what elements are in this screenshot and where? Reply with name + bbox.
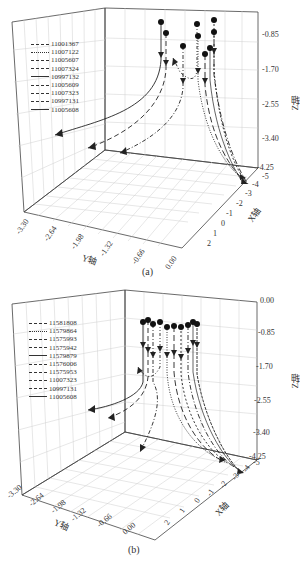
legend-item: 11007122 [31, 48, 79, 56]
legend-item: 11579879 [29, 352, 77, 360]
z-tick: -2.55 [262, 100, 279, 109]
legend-item: 11001367 [31, 40, 79, 48]
legend-item: 11005608 [31, 106, 79, 114]
z-tick: -1.70 [256, 362, 273, 371]
legend-item: 11576006 [29, 360, 77, 368]
chart-panel-b: 11581808 11579864 11575993 11575942 1157… [0, 282, 304, 564]
legend-item: 11005609 [31, 81, 79, 89]
z-tick: 0.00 [260, 296, 274, 305]
legend-a: 11001367 11007122 11005607 11007324 1099… [31, 40, 79, 114]
legend-item: 11005608 [29, 393, 77, 401]
legend-item: 10997131 [29, 385, 77, 393]
legend-b: 11581808 11579864 11575993 11575942 1157… [29, 319, 77, 401]
x-tick: 2 [207, 239, 211, 248]
x-tick: -5 [253, 458, 260, 467]
legend-item: 11579864 [29, 327, 77, 335]
panel-caption-a: (a) [142, 266, 153, 277]
chart-panel-a: 11001367 11007122 11005607 11007324 1099… [0, 0, 304, 282]
legend-item: 11005607 [31, 56, 79, 64]
x-tick: -4 [252, 180, 259, 189]
legend-item: 11575953 [29, 368, 77, 376]
z-tick: -4.25 [257, 163, 274, 172]
x-tick: -2 [236, 199, 243, 208]
panel-caption-b: (b) [128, 544, 140, 555]
x-tick: 1 [213, 229, 217, 238]
z-tick: -2.55 [254, 396, 271, 405]
z-tick: -3.40 [253, 428, 270, 437]
legend-item: 11575993 [29, 335, 77, 343]
x-tick: -5 [262, 172, 269, 181]
z-tick: -0.85 [262, 30, 279, 39]
x-tick: 0 [221, 219, 225, 228]
legend-item: 11007324 [31, 65, 79, 73]
z-tick: -0.85 [258, 328, 275, 337]
z-axis-title: Z轴 [288, 374, 301, 389]
legend-item: 10997131 [31, 97, 79, 105]
x-tick: -3 [245, 189, 252, 198]
x-tick: -1 [226, 209, 233, 218]
legend-item: 10997132 [31, 73, 79, 81]
z-axis-title: Z轴 [288, 96, 301, 111]
legend-item: 11581808 [29, 319, 77, 327]
legend-item: 11007323 [29, 376, 77, 384]
z-tick: -3.40 [262, 134, 279, 143]
z-tick: -1.70 [262, 65, 279, 74]
legend-item: 11007323 [31, 89, 79, 97]
legend-item: 11575942 [29, 344, 77, 352]
